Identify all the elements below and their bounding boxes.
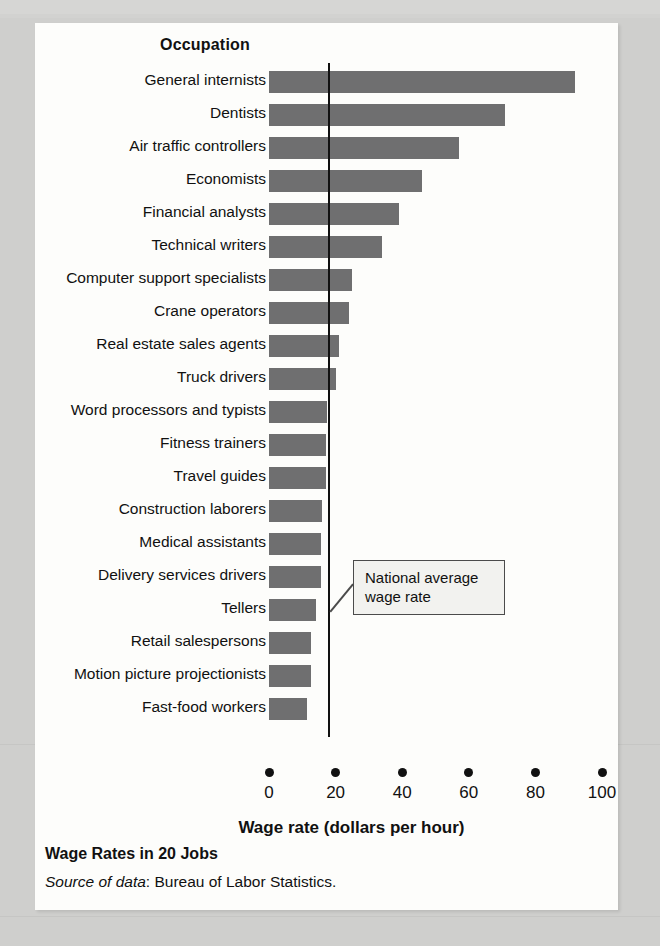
bar-category-label: Delivery services drivers	[0, 564, 266, 586]
bar-row: Economists	[35, 170, 618, 192]
bar	[269, 170, 422, 192]
bar-category-label: Computer support specialists	[0, 267, 266, 289]
x-axis-tick-dot	[598, 768, 607, 777]
bar-category-label: Economists	[0, 168, 266, 190]
bar-category-label: Technical writers	[0, 234, 266, 256]
x-axis-tick-dot	[531, 768, 540, 777]
national-average-reference-line	[328, 63, 330, 737]
bar-row: Delivery services drivers	[35, 566, 618, 588]
bar-row: Computer support specialists	[35, 269, 618, 291]
x-axis-tick-label: 20	[306, 783, 366, 803]
bar-row: Real estate sales agents	[35, 335, 618, 357]
figure-caption-title: Wage Rates in 20 Jobs	[45, 845, 218, 863]
bar-row: Travel guides	[35, 467, 618, 489]
bar-row: Fitness trainers	[35, 434, 618, 456]
bar-row: Retail salespersons	[35, 632, 618, 654]
bar	[269, 302, 349, 324]
callout-line-1: National average	[365, 568, 494, 587]
source-text: : Bureau of Labor Statistics.	[146, 873, 336, 890]
bar-category-label: Medical assistants	[0, 531, 266, 553]
bar-chart-plot-area: General internistsDentistsAir traffic co…	[35, 23, 618, 910]
bar-category-label: Crane operators	[0, 300, 266, 322]
x-axis-tick-label: 60	[439, 783, 499, 803]
bar	[269, 599, 316, 621]
bar	[269, 665, 311, 687]
page-texture-line	[0, 916, 660, 917]
bar-category-label: Truck drivers	[0, 366, 266, 388]
bar	[269, 269, 352, 291]
bar	[269, 236, 382, 258]
bar-category-label: Air traffic controllers	[0, 135, 266, 157]
bar-category-label: Real estate sales agents	[0, 333, 266, 355]
bar	[269, 632, 311, 654]
bar	[269, 434, 326, 456]
national-average-callout: National average wage rate	[353, 560, 505, 615]
bar-row: Air traffic controllers	[35, 137, 618, 159]
bar-row: Technical writers	[35, 236, 618, 258]
bar	[269, 104, 505, 126]
bar	[269, 533, 321, 555]
bar-category-label: Dentists	[0, 102, 266, 124]
callout-line-2: wage rate	[365, 587, 494, 606]
bar-category-label: Fast-food workers	[0, 696, 266, 718]
bar-row: Word processors and typists	[35, 401, 618, 423]
x-axis-title-text: Wage rate (dollars per hour)	[238, 818, 464, 838]
bar	[269, 698, 307, 720]
bar-row: Financial analysts	[35, 203, 618, 225]
x-axis-tick-dot	[398, 768, 407, 777]
source-label: Source of data	[45, 873, 146, 890]
bar-category-label: Tellers	[0, 597, 266, 619]
bar	[269, 368, 336, 390]
bar	[269, 500, 322, 522]
x-axis-tick-label: 80	[505, 783, 565, 803]
bar-category-label: Word processors and typists	[0, 399, 266, 421]
bar-category-label: Retail salespersons	[0, 630, 266, 652]
bar-row: Medical assistants	[35, 533, 618, 555]
bar-row: Tellers	[35, 599, 618, 621]
x-axis-tick-label: 40	[372, 783, 432, 803]
bar	[269, 203, 399, 225]
bar-row: Construction laborers	[35, 500, 618, 522]
bar-row: General internists	[35, 71, 618, 93]
bar	[269, 566, 321, 588]
figure-panel: Occupation General internistsDentistsAir…	[35, 23, 618, 910]
x-axis-tick-dot	[265, 768, 274, 777]
figure-caption-source: Source of data: Bureau of Labor Statisti…	[45, 873, 336, 891]
x-axis-tick-label: 100	[572, 783, 632, 803]
bar-row: Fast-food workers	[35, 698, 618, 720]
bar-category-label: Fitness trainers	[0, 432, 266, 454]
bar-category-label: Construction laborers	[0, 498, 266, 520]
bar	[269, 401, 327, 423]
bar-category-label: Travel guides	[0, 465, 266, 487]
bar-category-label: General internists	[0, 69, 266, 91]
bar-category-label: Financial analysts	[0, 201, 266, 223]
bar	[269, 71, 575, 93]
bar-row: Truck drivers	[35, 368, 618, 390]
bar-category-label: Motion picture projectionists	[0, 663, 266, 685]
bar	[269, 137, 459, 159]
bar-row: Crane operators	[35, 302, 618, 324]
bar-row: Dentists	[35, 104, 618, 126]
x-axis-title: Wage rate (dollars per hour)	[35, 818, 618, 838]
x-axis-tick-label: 0	[239, 783, 299, 803]
bar	[269, 467, 326, 489]
bar-row: Motion picture projectionists	[35, 665, 618, 687]
